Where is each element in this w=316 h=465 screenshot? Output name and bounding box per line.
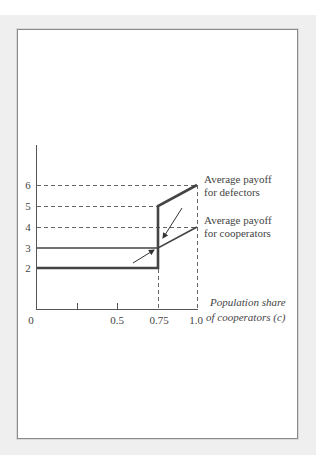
y-tick-label-3: 3 [25,242,31,254]
series-defectors [37,185,197,268]
x-axis-title-line2: of cooperators (c) [206,311,286,324]
label-cooperators-line1: Average payoff [204,214,272,226]
x-tick-label-0.75: 0.75 [149,314,169,326]
x-tick-label-0.5: 0.5 [110,314,124,326]
label-cooperators-line2: for cooperators [204,227,271,239]
series-cooperators [37,227,197,248]
arrow-from-right [163,208,182,238]
y-tick-label-2: 2 [25,262,31,274]
y-tick-label-6: 6 [25,179,31,191]
x-tick-label-0: 0 [28,314,34,326]
label-defectors-line1: Average payoff [204,173,272,185]
payoff-chart: 6 5 4 3 2 0 0.5 0.75 1.0 Average payoff … [0,0,316,465]
y-tick-label-4: 4 [25,221,31,233]
label-defectors-line2: for defectors [204,186,260,198]
y-tick-label-5: 5 [25,200,31,212]
arrow-from-left [133,250,154,263]
x-tick-label-1.0: 1.0 [189,314,203,326]
x-axis-title-line1: Population share [209,296,286,308]
reference-lines [37,185,198,309]
